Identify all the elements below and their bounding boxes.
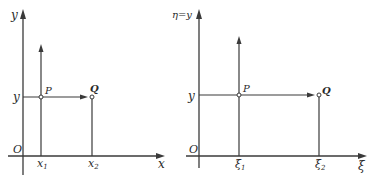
right-diagram: η=y ξ O y P Q ξ1 ξ2 — [172, 9, 367, 173]
left-x1-arrow-icon — [39, 44, 44, 52]
left-diagram: y x O y P Q x1 x2 — [8, 8, 165, 175]
left-x1-label: x1 — [37, 157, 48, 171]
right-point-q-label: Q — [322, 85, 331, 96]
right-origin-label: O — [189, 143, 198, 156]
left-point-p — [39, 95, 43, 99]
right-point-q — [317, 93, 321, 97]
right-xi1-arrow-icon — [237, 36, 242, 44]
left-y-axis-label: y — [10, 8, 18, 22]
right-xi2-label: ξ2 — [315, 158, 326, 172]
right-point-p-label: P — [242, 83, 250, 94]
right-eta-axis-arrow-icon — [196, 9, 202, 19]
left-pq-arrow-icon — [80, 95, 88, 100]
left-point-q — [90, 95, 94, 99]
right-xi-axis-label: ξ — [358, 159, 366, 173]
left-y-axis-arrow-icon — [20, 9, 26, 19]
left-point-p-label: P — [44, 85, 52, 96]
right-eta-axis-label: η=y — [172, 9, 192, 20]
left-y-tick-label: y — [12, 90, 20, 104]
left-x2-label: x2 — [88, 157, 99, 171]
right-pq-arrow-icon — [307, 93, 315, 98]
diagram-canvas: y x O y P Q x1 x2 η=y ξ O y P Q ξ1 — [0, 0, 371, 175]
left-origin-label: O — [13, 143, 22, 156]
right-point-p — [237, 93, 241, 97]
left-x-axis-label: x — [158, 157, 165, 171]
right-xi1-label: ξ1 — [235, 158, 246, 172]
right-y-tick-label: y — [187, 89, 195, 103]
left-point-q-label: Q — [90, 83, 99, 94]
